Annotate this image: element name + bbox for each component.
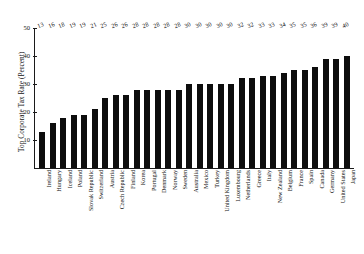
bar-value-label: 25 [99,20,107,29]
bar: 19 [81,115,87,168]
x-tick-label-slot: New Zealand [268,170,279,252]
bar: 28 [176,90,182,168]
x-tick-label-slot: Korea [132,170,143,252]
bar-value-label: 13 [36,20,44,29]
x-tick-label-slot: Ireland [37,170,48,252]
x-tick-label-slot: Poland [69,170,80,252]
bar-item: 36 [310,28,321,168]
x-tick-label-slot: Iceland [58,170,69,252]
bar: 30 [218,84,224,168]
bar-value-label: 32 [246,20,254,29]
bar-item: 30 [205,28,216,168]
y-tick-label: 20 [24,107,31,116]
bar-item: 25 [100,28,111,168]
x-tick-label-slot: Japan [342,170,353,252]
bar-value-label: 19 [68,20,76,29]
x-tick-label-slot: Norway [163,170,174,252]
bar-item: 13 [37,28,48,168]
bar: 26 [123,95,129,168]
bar-item: 33 [268,28,279,168]
bar-value-label: 30 [194,20,202,29]
bar-item: 16 [48,28,59,168]
bar-value-label: 34 [278,20,286,29]
bar-value-label: 39 [320,20,328,29]
x-tick-label-slot: United Kingdom [216,170,227,252]
plot-area: 1020304050 13161819192125262628282828283… [34,28,354,168]
bar: 32 [249,78,255,168]
bar-item: 19 [69,28,80,168]
bar: 40 [344,56,350,168]
bar-value-label: 18 [57,20,65,29]
x-tick-label: Japan [349,170,356,184]
bar-item: 28 [142,28,153,168]
bar-value-label: 28 [152,20,160,29]
bar-value-label: 36 [309,20,317,29]
bar-value-label: 26 [120,20,128,29]
bar: 18 [60,118,66,168]
bar-value-label: 21 [89,20,97,29]
bar-item: 21 [90,28,101,168]
bar-item: 19 [79,28,90,168]
x-tick-label-slot: Slovak Republic [79,170,90,252]
bar-item: 35 [289,28,300,168]
bar-value-label: 26 [110,20,118,29]
bar: 16 [50,123,56,168]
bar-item: 32 [237,28,248,168]
bar-value-label: 32 [236,20,244,29]
bar-value-label: 35 [299,20,307,29]
bar: 32 [239,78,245,168]
bar-value-label: 30 [225,20,233,29]
y-tick-label: 50 [24,23,31,32]
bar-item: 30 [216,28,227,168]
bar-item: 18 [58,28,69,168]
bar-value-label: 16 [47,20,55,29]
bar-value-label: 30 [204,20,212,29]
bar-item: 35 [300,28,311,168]
bar-value-label: 33 [267,20,275,29]
bar-item: 28 [153,28,164,168]
x-tick-label-slot: Germany [321,170,332,252]
bar-value-label: 33 [257,20,265,29]
bar-value-label: 28 [141,20,149,29]
x-tick-label-slot: Finland [121,170,132,252]
bar: 34 [281,73,287,168]
bar-item: 30 [195,28,206,168]
x-tick-label-slot: Switzerland [90,170,101,252]
y-tick-label: 10 [24,135,31,144]
bar: 39 [333,59,339,168]
x-tick-label-slot: Turkey [205,170,216,252]
bar-series: 1316181919212526262828282828303030303032… [35,28,354,168]
x-tick-label-slot: Netherlands [237,170,248,252]
bar: 33 [270,76,276,168]
bar: 28 [144,90,150,168]
x-tick-label-slot: Canada [310,170,321,252]
bar-item: 26 [121,28,132,168]
bar-value-label: 40 [341,20,349,29]
bar-item: 30 [226,28,237,168]
bar-item: 26 [111,28,122,168]
bar-item: 30 [184,28,195,168]
bar-item: 39 [331,28,342,168]
x-tick-label-slot: Sweden [174,170,185,252]
bar: 30 [186,84,192,168]
bar: 30 [197,84,203,168]
bar: 28 [155,90,161,168]
x-tick-label-slot: Greece [247,170,258,252]
bar: 13 [39,132,45,168]
x-tick-label-slot: Italy [258,170,269,252]
bar: 30 [207,84,213,168]
y-tick-label: 40 [24,51,31,60]
x-tick-label-slot: Czech Republic [111,170,122,252]
bar-item: 33 [258,28,269,168]
bar: 35 [302,70,308,168]
bar-item: 28 [163,28,174,168]
x-tick-label-slot: Denmark [153,170,164,252]
x-tick-label-slot: United States [331,170,342,252]
x-tick-label-slot: Australia [184,170,195,252]
bar: 28 [134,90,140,168]
bar: 30 [228,84,234,168]
x-tick-label-slot: France [289,170,300,252]
bar: 21 [92,109,98,168]
bar: 33 [260,76,266,168]
bar: 39 [323,59,329,168]
